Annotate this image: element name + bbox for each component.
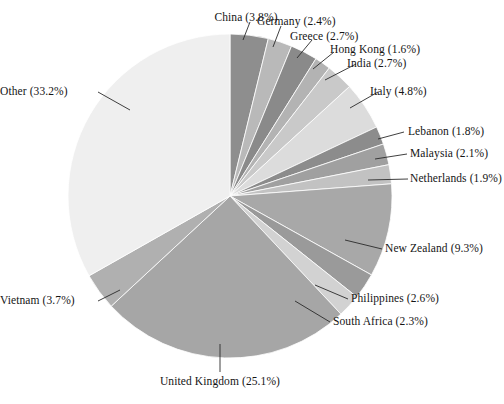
pie-chart-canvas [0, 0, 504, 404]
pie-slices-group [68, 34, 392, 358]
pie-label-india: India (2.7%) [347, 57, 406, 70]
pie-label-other: Other (33.2%) [0, 85, 95, 98]
pie-label-germany: Germany (2.4%) [257, 15, 336, 28]
leader-line-lebanon [378, 132, 404, 139]
pie-label-hong-kong: Hong Kong (1.6%) [330, 43, 420, 56]
pie-label-lebanon: Lebanon (1.8%) [408, 125, 484, 138]
pie-label-new-zealand: New Zealand (9.3%) [385, 242, 483, 255]
pie-label-philippines: Philippines (2.6%) [351, 292, 439, 305]
pie-label-netherlands: Netherlands (1.9%) [410, 172, 502, 185]
pie-label-south-africa: South Africa (2.3%) [333, 315, 428, 328]
pie-label-united-kingdom: United Kingdom (25.1%) [150, 375, 290, 388]
pie-chart-figure: China (3.8%) Germany (2.4%) Greece (2.7%… [0, 0, 504, 404]
pie-label-vietnam: Vietnam (3.7%) [0, 294, 95, 307]
pie-label-malaysia: Malaysia (2.1%) [410, 147, 488, 160]
pie-label-italy: Italy (4.8%) [370, 85, 427, 98]
pie-label-greece: Greece (2.7%) [290, 30, 358, 43]
